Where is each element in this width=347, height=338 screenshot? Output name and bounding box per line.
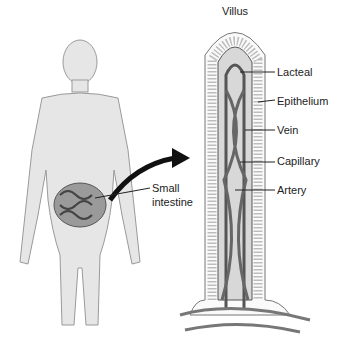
label-capillary: Capillary: [277, 155, 320, 168]
small-intestine-figure: [54, 183, 106, 227]
label-small-intestine-1: Small: [152, 182, 180, 195]
label-artery: Artery: [277, 184, 306, 197]
villus-title: Villus: [222, 5, 248, 18]
label-lacteal: Lacteal: [277, 66, 312, 79]
label-vein: Vein: [277, 124, 298, 137]
label-small-intestine-2: intestine: [152, 196, 193, 209]
diagram-canvas: [0, 0, 347, 338]
label-epithelium: Epithelium: [277, 95, 328, 108]
